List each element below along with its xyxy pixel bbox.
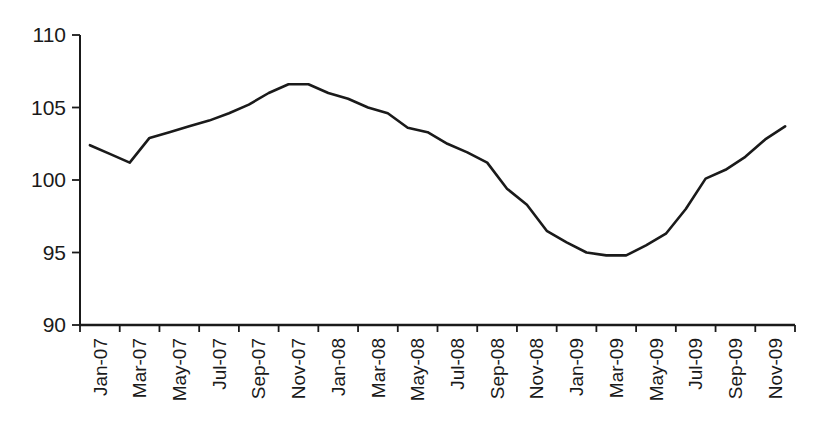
x-tick-label: May-07 <box>169 338 190 401</box>
y-tick-label: 110 <box>33 23 66 46</box>
x-tick-label: Nov-08 <box>526 338 547 399</box>
x-tick-label: Jul-07 <box>209 338 230 390</box>
x-tick-label: May-09 <box>646 338 667 401</box>
x-tick-label: Jan-09 <box>566 338 587 396</box>
x-tick-label: Nov-07 <box>288 338 309 399</box>
x-tick-label: Jan-08 <box>328 338 349 396</box>
data-series-line <box>90 84 785 255</box>
y-tick-label: 90 <box>43 313 66 336</box>
x-tick-label: Sep-07 <box>248 338 269 399</box>
x-tick-label: Jul-08 <box>447 338 468 390</box>
x-tick-label: Jan-07 <box>90 338 111 396</box>
x-tick-label: Nov-09 <box>765 338 786 399</box>
y-tick-label: 95 <box>43 241 66 264</box>
x-tick-label: May-08 <box>407 338 428 401</box>
x-tick-label: Sep-09 <box>725 338 746 399</box>
y-tick-label: 105 <box>31 96 66 119</box>
x-tick-label: Sep-08 <box>487 338 508 399</box>
x-tick-label: Mar-08 <box>368 338 389 398</box>
y-tick-label: 100 <box>31 168 66 191</box>
x-tick-label: Mar-07 <box>129 338 150 398</box>
x-tick-label: Mar-09 <box>606 338 627 398</box>
chart-page: 9095100105110Jan-07Mar-07May-07Jul-07Sep… <box>0 0 828 432</box>
x-tick-label: Jul-09 <box>685 338 706 390</box>
chart-canvas: 9095100105110Jan-07Mar-07May-07Jul-07Sep… <box>0 0 828 432</box>
line-chart-figure: 9095100105110Jan-07Mar-07May-07Jul-07Sep… <box>0 0 828 432</box>
